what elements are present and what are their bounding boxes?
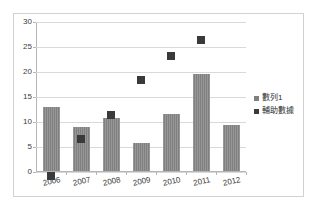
legend-label: 數列1 xyxy=(262,94,282,102)
data-point-marker xyxy=(167,52,175,60)
gridline xyxy=(36,72,246,73)
x-tick-label: 2009 xyxy=(132,176,151,188)
y-tick-label: 5 xyxy=(28,143,32,151)
bar xyxy=(223,125,240,172)
gridline xyxy=(36,47,246,48)
x-tick-label: 2010 xyxy=(162,176,181,188)
legend-swatch-icon xyxy=(254,96,259,101)
y-tick-label: 30 xyxy=(23,18,32,26)
bar xyxy=(133,143,150,171)
data-point-marker xyxy=(107,111,115,119)
x-tick-mark xyxy=(96,172,97,175)
x-tick-label: 2007 xyxy=(72,176,91,188)
x-tick-mark xyxy=(246,172,247,175)
legend-label: 輔助數據 xyxy=(262,107,294,115)
gridline xyxy=(36,97,246,98)
y-tick-mark xyxy=(33,122,36,123)
x-tick-mark xyxy=(156,172,157,175)
bar xyxy=(43,107,60,171)
gridline xyxy=(36,122,246,123)
x-tick-label: 2011 xyxy=(193,176,211,187)
chart-legend: 數列1輔助數據 xyxy=(254,94,304,120)
x-tick-mark xyxy=(126,172,127,175)
x-tick-mark xyxy=(66,172,67,175)
y-tick-mark xyxy=(33,22,36,23)
data-point-marker xyxy=(77,135,85,143)
x-tick-mark xyxy=(216,172,217,175)
y-tick-label: 15 xyxy=(23,93,32,101)
legend-item[interactable]: 輔助數據 xyxy=(254,107,304,115)
bar xyxy=(163,114,180,172)
y-tick-mark xyxy=(33,97,36,98)
data-point-marker xyxy=(197,36,205,44)
legend-item[interactable]: 數列1 xyxy=(254,94,304,102)
y-tick-label: 25 xyxy=(23,43,32,51)
x-tick-label: 2006 xyxy=(42,176,61,188)
bar xyxy=(103,118,120,172)
bar xyxy=(193,74,210,171)
plot-area: 051015202530 200620072008200920102011201… xyxy=(36,22,246,172)
chart-figure: 051015202530 200620072008200920102011201… xyxy=(13,13,304,197)
y-tick-mark xyxy=(33,72,36,73)
y-tick-mark xyxy=(33,172,36,173)
x-tick-mark xyxy=(186,172,187,175)
y-tick-label: 20 xyxy=(23,68,32,76)
x-tick-label: 2008 xyxy=(102,176,121,188)
gridline xyxy=(36,172,246,173)
gridline xyxy=(36,22,246,23)
y-tick-label: 0 xyxy=(28,168,32,176)
x-tick-label: 2012 xyxy=(222,176,241,188)
y-tick-label: 10 xyxy=(23,118,32,126)
data-point-marker xyxy=(137,76,145,84)
y-tick-mark xyxy=(33,47,36,48)
legend-swatch-icon xyxy=(254,109,259,114)
y-tick-mark xyxy=(33,147,36,148)
